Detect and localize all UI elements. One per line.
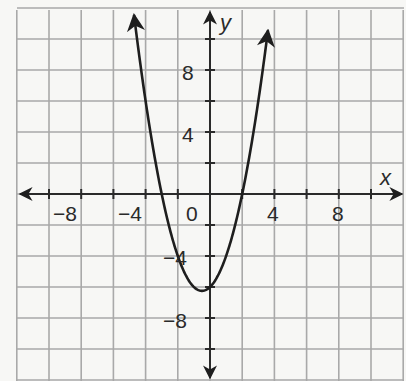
- x-axis-label: x: [379, 165, 392, 190]
- x-tick-label-8: 8: [332, 202, 344, 225]
- y-tick-label-8: 8: [182, 61, 194, 84]
- y-tick-label-4: 4: [182, 123, 194, 146]
- x-tick-label-neg4: −4: [118, 202, 142, 225]
- origin-label: 0: [186, 202, 198, 225]
- y-axis-label: y: [218, 10, 233, 35]
- y-tick-label-neg8: −8: [163, 309, 187, 332]
- parabola-curve: [134, 15, 268, 291]
- y-tick-label-neg4: −4: [163, 246, 187, 269]
- x-tick-label-neg8: −8: [53, 202, 77, 225]
- x-tick-label-4: 4: [267, 202, 279, 225]
- coordinate-plane: y x −8 −4 0 4 8 8 4 −4 −8: [0, 0, 406, 381]
